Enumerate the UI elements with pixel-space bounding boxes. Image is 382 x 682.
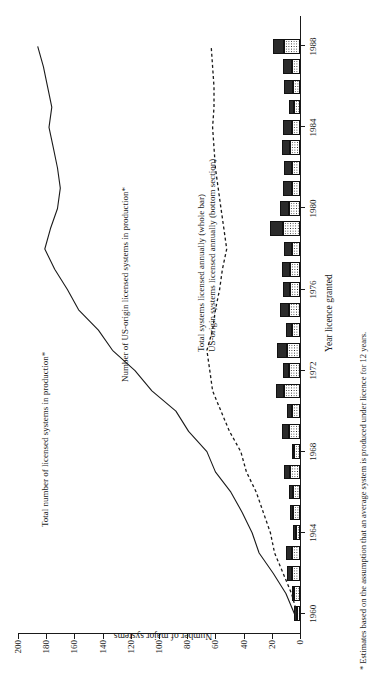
annotation-bar-us: US-origin systems licensed annually (bot… [207,159,218,352]
y-axis-title: Number of major systems [103,631,223,641]
plot-area: 19601964196819721976198019841988 0204060… [0,0,382,682]
annotation-total-production: Total number of licensed systems in prod… [40,352,51,527]
chart-figure: 19601964196819721976198019841988 0204060… [0,0,382,682]
footnote-text: * Estimates based on the assumption that… [358,332,368,670]
line-total-in-production [38,46,295,613]
x-axis-title: Year licence granted [324,274,334,352]
annotation-us-production: Number of US-origin licensed systems in … [120,187,131,382]
line-us-in-production [207,46,297,613]
annotation-bar-total: Total systems licensed annually (whole b… [196,194,207,352]
